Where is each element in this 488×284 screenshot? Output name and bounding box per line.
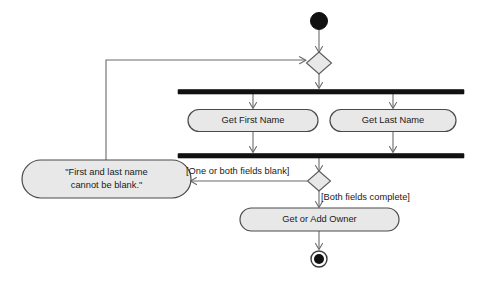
diagram-canvas: Get First Name Get Last Name "First and …	[0, 0, 488, 284]
activity-get-last-name-label: Get Last Name	[362, 115, 425, 125]
activity-get-or-add-owner: Get or Add Owner	[240, 208, 399, 231]
edge-fork-to-first-name	[250, 94, 257, 109]
decision-node-entry	[307, 52, 332, 74]
activity-error-message-line1: "First and last name	[65, 167, 147, 177]
edge-owner-to-final	[316, 231, 323, 250]
final-node	[311, 251, 327, 267]
decision-node-validate	[308, 171, 331, 191]
initial-node	[311, 13, 328, 30]
edge-initial-to-decision	[316, 30, 323, 53]
activity-get-first-name: Get First Name	[188, 110, 318, 132]
guard-label-one-or-both-fields-blank: [One or both fields blank]	[186, 166, 289, 176]
guard-label-both-fields-complete: [Both fields complete]	[321, 192, 410, 202]
edge-first-name-to-join	[250, 132, 257, 153]
edge-decision-to-fork	[316, 74, 323, 89]
activity-get-last-name: Get Last Name	[330, 110, 456, 132]
activity-error-message-line2: cannot be blank."	[71, 180, 143, 190]
activity-get-or-add-owner-label: Get or Add Owner	[282, 214, 356, 224]
activity-get-first-name-label: Get First Name	[221, 115, 284, 125]
edge-last-name-to-join	[390, 132, 397, 153]
uml-activity-diagram: Get First Name Get Last Name "First and …	[0, 0, 488, 284]
edge-fork-to-last-name	[390, 94, 397, 109]
join-bar	[178, 154, 464, 159]
fork-bar	[178, 90, 464, 95]
edge-join-to-decision2	[316, 158, 323, 172]
edge-decision2-to-error	[191, 178, 308, 185]
activity-error-message: "First and last name cannot be blank."	[22, 160, 191, 198]
